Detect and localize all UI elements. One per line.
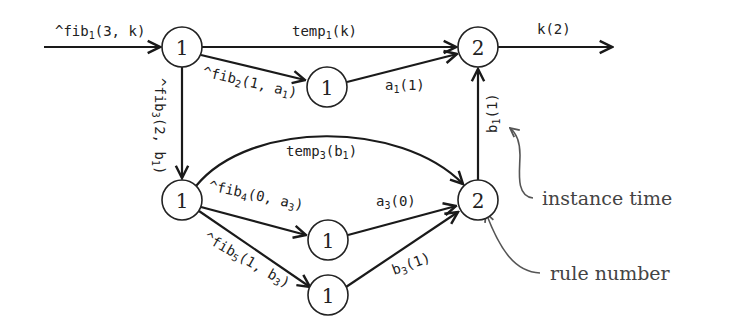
node-n5: 2 bbox=[458, 180, 498, 220]
label-b1: b1(1) bbox=[484, 93, 502, 133]
label-a3: a3(0) bbox=[376, 193, 416, 211]
edge-n7-to-n5 bbox=[346, 212, 458, 287]
instance-time-pointer bbox=[510, 128, 533, 198]
label-fib1: ^fib1(3, k) bbox=[55, 23, 145, 41]
label-fib4: ^fib4(0, a3) bbox=[207, 177, 305, 215]
node-n3: 2 bbox=[458, 27, 498, 67]
svg-text:1: 1 bbox=[176, 189, 189, 213]
label-fib5: ^fib5(1, b3) bbox=[201, 229, 293, 293]
edge-n6-to-n5 bbox=[348, 206, 456, 235]
node-n6: 1 bbox=[308, 220, 348, 260]
svg-text:1: 1 bbox=[176, 36, 189, 60]
svg-text:1: 1 bbox=[321, 76, 334, 100]
label-a1: a1(1) bbox=[385, 77, 425, 95]
svg-text:2: 2 bbox=[472, 36, 485, 60]
svg-text:1: 1 bbox=[322, 229, 335, 253]
rule-number-pointer bbox=[486, 213, 540, 273]
label-fib2: ^fib2(1, a1) bbox=[201, 63, 299, 102]
node-n1: 1 bbox=[162, 27, 202, 67]
annotation-rule-number: rule number bbox=[550, 262, 671, 284]
fib-graph-diagram: 1 1 2 1 2 1 1 ^fib1(3, k) temp1(k) k(2) … bbox=[0, 0, 740, 335]
svg-text:1: 1 bbox=[322, 284, 335, 308]
node-n7: 1 bbox=[308, 275, 348, 315]
node-n2: 1 bbox=[307, 67, 347, 107]
annotation-instance-time: instance time bbox=[542, 187, 672, 209]
node-n4: 1 bbox=[162, 180, 202, 220]
svg-text:2: 2 bbox=[472, 189, 485, 213]
label-temp3: temp3(b1) bbox=[286, 143, 357, 161]
label-temp1: temp1(k) bbox=[292, 23, 357, 41]
label-k2: k(2) bbox=[537, 21, 571, 37]
label-fib3: ^fib3(2, b1) bbox=[150, 78, 168, 174]
